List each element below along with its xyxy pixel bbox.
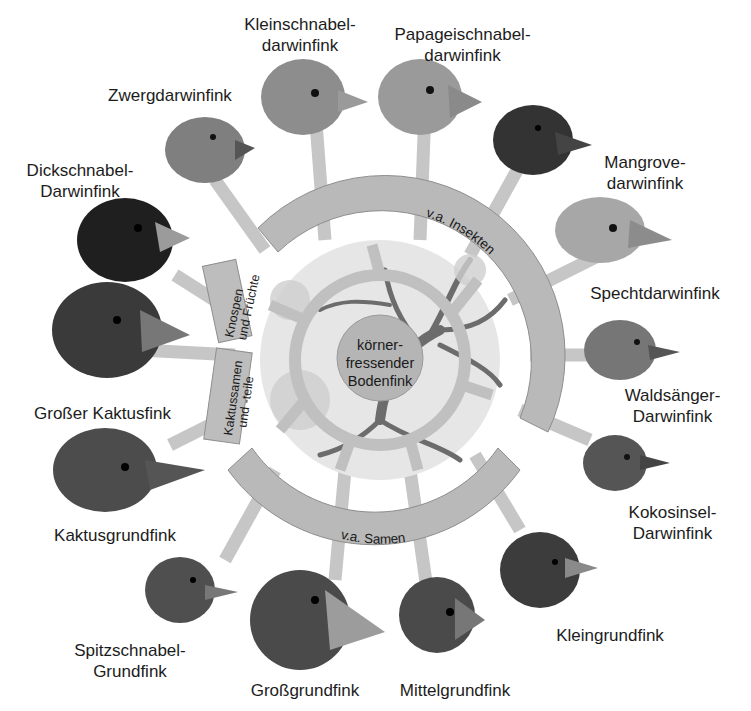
head-spitzschnabel-icon: [145, 557, 238, 623]
species-label-zwerg: Zwergdarwinfink: [95, 85, 245, 106]
species-label-dickschnabel: Dickschnabel- Darwinfink: [15, 160, 145, 202]
head-specht-icon: [555, 197, 672, 263]
species-label-papageischnabel: Papageischnabel- darwinfink: [375, 24, 550, 66]
species-label-grosser-kaktus: Großer Kaktusfink: [15, 403, 190, 424]
head-mangrove-icon: [493, 105, 592, 175]
head-waldsaenger-icon: [584, 320, 680, 380]
species-label-waldsaenger: Waldsänger- Darwinfink: [615, 385, 730, 427]
head-grossgrund-icon: [250, 570, 385, 670]
ancestor-label: körner- fressender Bodenfink: [337, 336, 423, 390]
head-dickschnabel-icon: [77, 198, 190, 282]
species-label-kleingrund: Kleingrundfink: [540, 625, 680, 646]
head-kleinschnabel-icon: [261, 59, 368, 135]
species-label-mittelgrund: Mittelgrundfink: [385, 680, 525, 701]
head-kokosinsel-icon: [583, 435, 670, 491]
species-label-kaktusgrund: Kaktusgrundfink: [40, 525, 190, 546]
species-label-specht: Spechtdarwinfink: [580, 283, 730, 304]
species-label-kleinschnabel: Kleinschnabel- darwinfink: [220, 14, 380, 56]
head-mittelgrund-icon: [399, 577, 485, 653]
head-kleingrund-icon: [500, 532, 598, 608]
species-label-kokosinsel: Kokosinsel- Darwinfink: [615, 502, 730, 544]
head-grosser-kaktus-icon: [52, 282, 190, 378]
species-label-spitzschnabel: Spitzschnabel- Grundfink: [65, 640, 195, 682]
head-papageischnabel-icon: [378, 59, 482, 135]
head-zwerg-icon: [165, 117, 255, 183]
species-label-mangrove: Mangrove- darwinfink: [585, 152, 705, 194]
species-label-grossgrund: Großgrundfink: [240, 680, 370, 701]
